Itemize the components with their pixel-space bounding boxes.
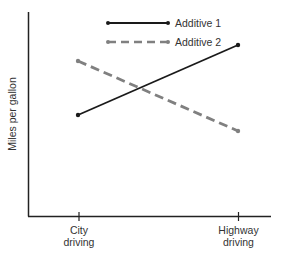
series-additive-1-line	[78, 45, 238, 115]
legend-marker-additive-2-right	[166, 40, 170, 44]
series-additive-2-point-highway	[236, 129, 240, 133]
legend: Additive 1 Additive 2	[106, 17, 221, 48]
legend-marker-additive-1-left	[106, 21, 110, 25]
x-label-city-line2: driving	[64, 236, 95, 248]
series-additive-1-point-city	[76, 113, 80, 117]
legend-label-additive-1: Additive 1	[175, 17, 221, 29]
y-axis-label: Miles per gallon	[6, 77, 18, 151]
series-additive-2-line	[78, 61, 238, 131]
interaction-line-chart: Miles per gallon City driving Highway dr…	[0, 0, 284, 255]
x-label-highway-line1: Highway	[218, 224, 259, 236]
legend-label-additive-2: Additive 2	[175, 36, 221, 48]
series-additive-2-point-city	[76, 59, 80, 63]
series-additive-1-point-highway	[236, 43, 240, 47]
legend-marker-additive-2-left	[106, 40, 110, 44]
legend-marker-additive-1-right	[166, 21, 170, 25]
x-label-city-line1: City	[70, 224, 89, 236]
x-label-highway-line2: driving	[223, 236, 254, 248]
